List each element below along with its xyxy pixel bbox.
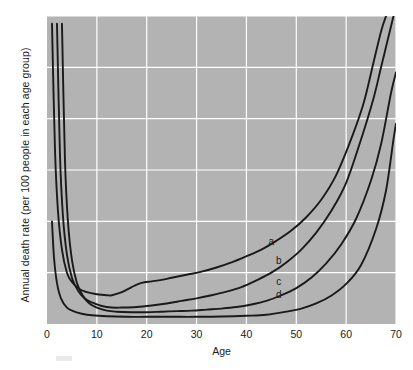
x-tick-label: 70	[381, 328, 411, 340]
curve-label-a: a	[269, 235, 275, 246]
x-axis-label: Age	[47, 345, 396, 357]
curve-label-c: c	[276, 276, 281, 287]
x-tick-label: 30	[182, 328, 212, 340]
scan-artifact	[56, 356, 72, 361]
gridlines	[47, 16, 396, 324]
curve-label-b: b	[276, 254, 282, 265]
data-curves	[52, 16, 396, 317]
x-tick-label: 50	[281, 328, 311, 340]
figure-root: Annual death rate (per 100 people in eac…	[0, 0, 413, 370]
x-tick-label: 0	[32, 328, 62, 340]
chart-svg	[47, 16, 396, 324]
y-axis-label: Annual death rate (per 100 people in eac…	[14, 10, 36, 340]
x-tick-label: 10	[82, 328, 112, 340]
x-tick-label: 60	[331, 328, 361, 340]
x-tick-label: 40	[231, 328, 261, 340]
curve-a	[52, 16, 386, 296]
x-tick-label: 20	[132, 328, 162, 340]
curve-d	[52, 124, 396, 317]
plot-area: abcd	[47, 16, 396, 324]
curve-label-d: d	[276, 289, 282, 300]
